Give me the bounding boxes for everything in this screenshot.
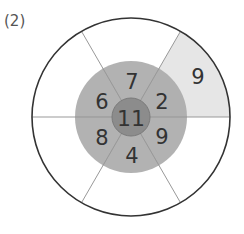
number-wheel-diagram: 11 7 2 9 4 8 6 9 (0, 0, 244, 234)
outer-value-upper-right: 9 (191, 65, 204, 89)
inner-value-lower-left: 8 (95, 126, 108, 150)
inner-value-upper-left: 6 (95, 90, 108, 114)
inner-value-top: 7 (125, 70, 138, 94)
inner-value-lower-right: 9 (155, 125, 168, 149)
center-value: 11 (117, 106, 145, 131)
inner-value-bottom: 4 (125, 144, 138, 168)
inner-value-upper-right: 2 (155, 90, 168, 114)
